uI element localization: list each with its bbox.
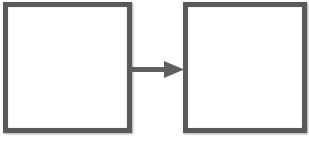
source-box — [3, 2, 132, 133]
arrow-right-icon — [130, 60, 186, 80]
target-box — [183, 2, 307, 133]
